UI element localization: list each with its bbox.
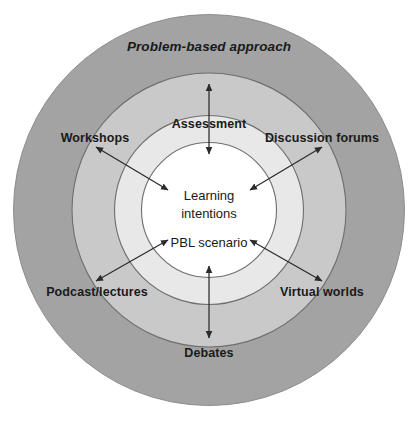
center-label-learning: Learning	[184, 189, 235, 204]
center-label-pbl-scenario: PBL scenario	[171, 236, 248, 251]
node-label-assessment: Assessment	[172, 117, 247, 131]
outer-ring-label: Problem-based approach	[127, 39, 291, 55]
diagram-container: Problem-based approach Assessment Worksh…	[0, 0, 420, 422]
node-label-workshops: Workshops	[61, 131, 130, 145]
node-label-virtual-worlds: Virtual worlds	[280, 285, 364, 299]
center-label-intentions: intentions	[181, 207, 237, 222]
node-label-podcast-lectures: Podcast/lectures	[46, 285, 148, 299]
node-label-discussion-forums: Discussion forums	[265, 131, 379, 145]
node-label-debates: Debates	[184, 346, 233, 360]
